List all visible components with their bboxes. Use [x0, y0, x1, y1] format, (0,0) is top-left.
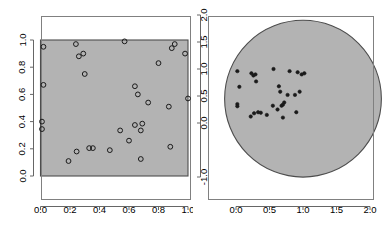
- y-axis-tick-label: 1.0: [198, 62, 209, 75]
- scatter-svg: 0.00.51.01.52.0-1.00.00.51.01.52.0: [193, 0, 386, 245]
- data-point: [283, 101, 286, 104]
- data-point: [298, 90, 301, 93]
- data-point: [276, 108, 279, 111]
- data-point: [271, 104, 274, 107]
- x-axis-tick-label: 0.5: [263, 204, 276, 215]
- data-point: [279, 90, 282, 93]
- x-axis-tick-label: 1.5: [330, 204, 343, 215]
- data-point: [300, 73, 303, 76]
- y-axis-tick-label: 0.4: [17, 115, 28, 128]
- x-axis-tick-label: 0.0: [229, 204, 242, 215]
- data-point: [265, 113, 268, 116]
- y-axis-tick-label: 0.0: [17, 169, 28, 182]
- x-axis-tick-label: 0.2: [63, 204, 76, 215]
- data-point: [259, 111, 262, 114]
- sampling-region-rectangle: [41, 40, 189, 176]
- x-axis-tick-label: 0.6: [122, 204, 135, 215]
- y-axis-tick-label: 0.2: [17, 142, 28, 155]
- data-point: [293, 93, 296, 96]
- y-axis-tick-label: 1.0: [17, 33, 28, 46]
- y-axis-tick-label: 0.5: [198, 89, 209, 102]
- data-point: [249, 115, 252, 118]
- y-axis-tick-label: 2.0: [198, 8, 209, 21]
- y-axis-tick-label: 0.8: [17, 61, 28, 74]
- data-point: [236, 105, 239, 108]
- data-point: [281, 116, 284, 119]
- data-point: [252, 112, 255, 115]
- scatter-panel-uniform-disc: 0.00.51.01.52.0-1.00.00.51.01.52.0: [193, 0, 386, 245]
- y-axis-tick-label: 0.6: [17, 88, 28, 101]
- y-axis-tick-label: -1.0: [198, 169, 209, 185]
- y-axis-tick-label: 1.5: [198, 35, 209, 48]
- x-axis-tick-label: 0.0: [34, 204, 47, 215]
- data-point: [296, 71, 299, 74]
- x-axis-tick-label: 0.4: [93, 204, 106, 215]
- data-point: [254, 80, 257, 83]
- data-point: [254, 73, 257, 76]
- y-axis-tick-label: 0.0: [198, 116, 209, 129]
- x-axis-tick-label: 1.0: [181, 204, 193, 215]
- data-point: [295, 111, 298, 114]
- data-point: [272, 67, 275, 70]
- data-point: [238, 85, 241, 88]
- scatter-panel-uniform-square: 0.00.20.40.60.81.00.00.20.40.60.81.0: [0, 0, 193, 245]
- data-point: [288, 69, 291, 72]
- sampling-region-circle: [225, 20, 382, 177]
- x-axis-tick-label: 0.8: [152, 204, 165, 215]
- x-axis-tick-label: 1.0: [296, 204, 309, 215]
- data-point: [277, 85, 280, 88]
- data-point: [236, 69, 239, 72]
- data-point: [286, 93, 289, 96]
- x-axis-tick-label: 2.0: [363, 204, 376, 215]
- scatter-svg: 0.00.20.40.60.81.00.00.20.40.60.81.0: [0, 0, 193, 245]
- plot-figure: 0.00.20.40.60.81.00.00.20.40.60.81.0 0.0…: [0, 0, 386, 245]
